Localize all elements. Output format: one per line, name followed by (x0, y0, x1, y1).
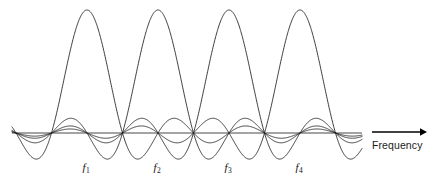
carrier-label-f3: f3 (225, 161, 232, 173)
sinc-curve-group (12, 10, 362, 159)
sinc-curve-f2 (12, 10, 362, 159)
spectrum-plot (0, 0, 439, 186)
carrier-label-index: 4 (299, 166, 303, 175)
ofdm-subcarrier-figure: Frequency f1f2f3f4 (0, 0, 439, 186)
carrier-label-index: 3 (228, 166, 232, 175)
sinc-curve-f1 (12, 10, 362, 159)
frequency-arrow-icon (372, 128, 427, 136)
carrier-label-f1: f1 (83, 161, 90, 173)
frequency-axis-label: Frequency (372, 139, 423, 151)
sinc-curve-f3 (12, 10, 362, 159)
carrier-label-index: 2 (157, 166, 161, 175)
carrier-label-f2: f2 (154, 161, 161, 173)
carrier-label-f4: f4 (296, 161, 303, 173)
carrier-label-index: 1 (86, 166, 90, 175)
sinc-curve-f4 (12, 10, 362, 159)
